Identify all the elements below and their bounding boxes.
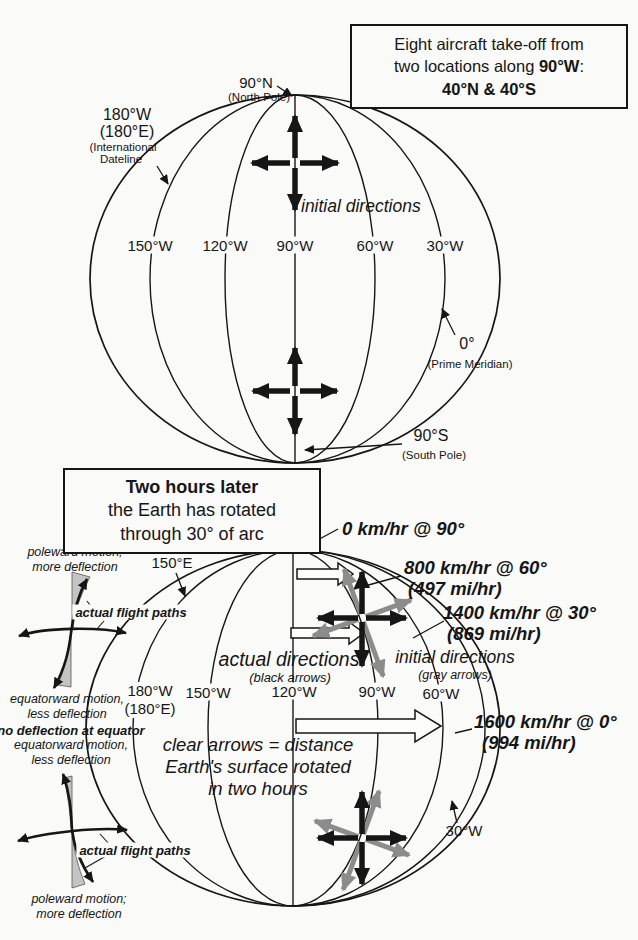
bottom-meridian-label-180w: 180°W (180°E) (121, 682, 178, 718)
speed-value: 1400 km/hr @ 30° (443, 603, 596, 624)
bottom-meridian-label-90w: 90°W (356, 683, 399, 700)
paths-label-leader (85, 856, 106, 868)
clear-note-line1: clear arrows = distance (163, 734, 354, 756)
w30-leader-icon (452, 801, 457, 823)
sidebar-bottom-cross (18, 774, 127, 888)
flight-path-horizontal-icon (19, 629, 126, 636)
poleward-line2: more deflection (27, 560, 122, 575)
top-initial-directions-label: initial directions (301, 196, 421, 217)
gray-arrow-icon (315, 821, 358, 837)
equatorward-line2: less deflection (10, 707, 124, 722)
speed-alt: (497 mi/hr) (404, 579, 547, 600)
poleward-line2: more deflection (31, 907, 126, 922)
speed-label-90deg: 0 km/hr @ 90° (342, 519, 464, 540)
callout2-line1: Two hours later (69, 476, 315, 499)
callout-line1: Eight aircraft take-off from (356, 33, 622, 55)
prime-deg: 0° (459, 335, 474, 353)
dateline-name2: Dateline (100, 153, 142, 165)
speed1600-leader (455, 729, 472, 733)
sidebar-bottom-paths-label: actual flight paths (76, 843, 193, 858)
equatorward-line1: equatorward motion, (10, 692, 124, 707)
top-meridian-label-120w: 120°W (199, 237, 250, 254)
sidebar-top-cross (19, 572, 126, 688)
figure: Eight aircraft take-off from two locatio… (0, 0, 638, 940)
speed-value: 1600 km/hr @ 0° (474, 712, 617, 733)
clear-note-line3: in two hours (163, 778, 354, 800)
gray-arrow-icon (366, 839, 409, 855)
north-pole-deg: 90°N (239, 74, 273, 91)
initial-directions-label: initial directions (395, 647, 515, 668)
dateline-deg: 180°W (103, 106, 151, 124)
speed-label-0deg: 1600 km/hr @ 0° (994 mi/hr) (474, 712, 617, 753)
top-meridian-label-60w: 60°W (354, 237, 397, 254)
bottom-meridian-label-150w: 150°W (182, 684, 233, 701)
top-callout-box: Eight aircraft take-off from two locatio… (350, 24, 628, 109)
callout2-line3: through 30° of arc (69, 523, 315, 546)
equatorward-line2: less deflection (14, 753, 128, 768)
gray-arrow-icon (344, 569, 360, 614)
dateline-name1: (International (89, 141, 156, 153)
top-meridian-30w (295, 95, 445, 463)
south-pole-deg: 90°S (414, 427, 449, 445)
dateline-deg2: (180°E) (100, 123, 154, 141)
sidebar-top-equatorward-label: equatorward motion, less deflection (10, 692, 124, 722)
bottom-meridian-150w (208, 550, 293, 906)
top-meridian-150w (150, 95, 295, 463)
initial-directions-sub: (gray arrows) (418, 668, 492, 682)
callout2-line2: the Earth has rotated (69, 499, 315, 522)
poleward-line1: poleward motion; (31, 892, 126, 907)
top-meridian-label-90w: 90°W (274, 237, 317, 254)
bottom-meridian-label-60w: 60°W (420, 685, 463, 702)
dateline-leader-icon (157, 166, 168, 184)
speed-label-60deg: 800 km/hr @ 60° (497 mi/hr) (404, 558, 547, 599)
sidebar-bottom-poleward-label: poleward motion; more deflection (31, 892, 126, 922)
south-pole-name: (South Pole) (402, 449, 466, 461)
top-meridian-60w (295, 95, 375, 463)
sidebar-bottom-equatorward-label: equatorward motion, less deflection (14, 738, 128, 768)
meridian-deg-alt: (180°E) (124, 700, 175, 718)
speed-alt: (869 mi/hr) (443, 624, 596, 645)
bottom-meridian-label-150e: 150°E (151, 554, 192, 571)
prime-meridian-leader-icon (442, 309, 455, 335)
top-leaders (157, 86, 455, 450)
no-deflection-label: no deflection at equator (0, 723, 145, 738)
clear-arrows-note: clear arrows = distance Earth's surface … (163, 734, 354, 801)
north-pole-name: (North Pole) (228, 91, 290, 103)
equatorward-line1: equatorward motion, (14, 738, 128, 753)
bottom-callout-box: Two hours later the Earth has rotated th… (63, 468, 321, 554)
gray-arrow-icon (343, 842, 360, 890)
speed-alt: (994 mi/hr) (474, 733, 617, 754)
clear-note-line2: Earth's surface rotated (163, 756, 354, 778)
speed-label-30deg: 1400 km/hr @ 30° (869 mi/hr) (443, 603, 596, 644)
bottom-meridian-label-120w: 120°W (268, 683, 319, 700)
callout-line2: two locations along 90°W: (356, 55, 622, 77)
speed-value: 800 km/hr @ 60° (404, 558, 547, 579)
actual-directions-label: actual directions (219, 648, 360, 671)
meridian-deg: 180°W (124, 682, 175, 700)
top-meridian-label-150w: 150°W (124, 237, 175, 254)
bottom-meridian-label-30w: 30°W (446, 822, 483, 839)
top-meridian-120w (225, 95, 295, 463)
actual-directions-black-cross (318, 792, 406, 884)
prime-name: (Prime Meridian) (428, 358, 513, 370)
sidebar-top-paths-label: actual flight paths (72, 605, 189, 620)
callout-line3: 40°N & 40°S (356, 78, 622, 100)
top-meridian-label-30w: 30°W (424, 237, 467, 254)
